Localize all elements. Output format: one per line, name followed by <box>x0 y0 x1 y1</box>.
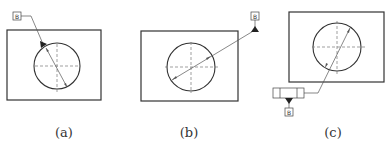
diameter-line-c <box>318 28 350 93</box>
figure-c: B <box>273 12 384 116</box>
diameter-line-a <box>46 48 67 87</box>
arrowhead-icon <box>64 83 67 87</box>
arrowhead-icon <box>325 63 328 68</box>
caption-b: (b) <box>169 125 209 140</box>
diameter-line-b <box>172 30 255 80</box>
arrowhead-icon <box>206 56 211 60</box>
figure-b: B <box>141 12 259 101</box>
datum-label-b: B <box>253 13 257 20</box>
datum-triangle-icon <box>251 26 259 32</box>
caption-a: (a) <box>44 125 84 140</box>
datum-label-a: B <box>15 13 19 20</box>
arrowhead-icon <box>172 76 177 80</box>
datum-label-c: B <box>287 109 291 116</box>
feature-control-frame <box>273 88 304 98</box>
figure-a: B <box>7 12 101 100</box>
caption-c: (c) <box>313 125 353 140</box>
arrowhead-icon <box>347 28 350 33</box>
arrowhead-icon <box>46 48 49 52</box>
part-outline-a <box>7 30 101 100</box>
